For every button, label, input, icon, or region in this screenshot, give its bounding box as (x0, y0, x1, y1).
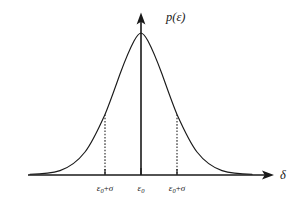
tick-label-right: ε0+σ (169, 183, 186, 194)
tick-label-left: ε0+σ (97, 183, 114, 194)
y-axis-label: p(ε) (165, 10, 186, 24)
tick-center-subscript: 0 (141, 187, 145, 194)
tick-left-term: σ (109, 183, 114, 193)
tick-label-center: ε0 (138, 183, 146, 194)
plot-canvas: p(ε) δ ε0+σ ε0 ε0+σ (0, 0, 300, 209)
gaussian-distribution-figure: p(ε) δ ε0+σ ε0 ε0+σ (0, 0, 300, 209)
tick-right-term: σ (181, 183, 186, 193)
x-axis-label: δ (280, 168, 286, 182)
